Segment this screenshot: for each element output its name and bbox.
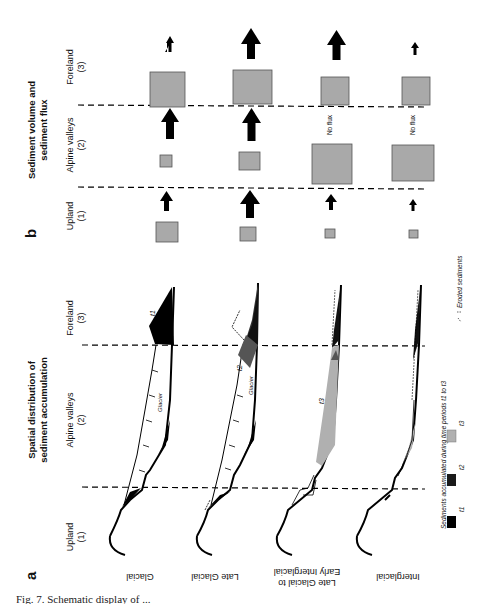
panel-b-letter: b [22, 229, 39, 238]
legend-label-t3: t3 [458, 420, 465, 426]
legend-label-t2: t2 [458, 464, 465, 470]
period-label-interglacial: Interglacial [376, 572, 420, 582]
panel-b-title-line1: Sediment volume and [26, 81, 37, 179]
panel-a: a Spatial distribution of sediment accum… [22, 255, 465, 588]
flux-arrow-lateglacial-alpine-to-foreland [242, 108, 261, 141]
volume-box-lgeig-upland [325, 229, 335, 238]
profile-lg-early-ig: t3 [277, 285, 341, 555]
no-flux-label-lgeig: No flux [326, 114, 333, 135]
panel-a-letter: a [22, 571, 39, 580]
panel-b-zone-alpine: Alpine valleys [65, 117, 75, 173]
volume-box-lateglacial-foreland [233, 70, 272, 104]
legend-label-t1: t1 [458, 506, 465, 512]
panel-b-zone-upland-num: (1) [76, 210, 86, 221]
volume-box-glacial-foreland [150, 72, 185, 107]
flux-arrow-interglacial-upland-to-alpine [409, 199, 417, 211]
panel-b: b Sediment volume and sediment flux Upla… [22, 28, 434, 242]
figure-caption: Fig. 7. Schematic display of ... [16, 593, 151, 604]
flux-arrow-lateglacial-upland-to-alpine [240, 190, 260, 218]
panel-b-zone-foreland-num: (3) [76, 61, 86, 72]
flux-arrow-lgeig-foreland-out [327, 30, 346, 60]
eroded-line-icon [457, 312, 461, 322]
panel-a-title-line2: sediment accumulation [38, 357, 49, 463]
period-label-lgeig-line2: Early Interglacial [274, 567, 341, 577]
period-label-late-glacial: Late Glacial [191, 572, 239, 582]
panel-b-divider-upland-alpine [78, 187, 425, 189]
period-label-glacial: Glacial [126, 572, 154, 582]
volume-box-glacial-alpine [160, 155, 172, 167]
flux-arrow-glacial-upland-to-alpine [160, 191, 173, 211]
panel-a-zone-alpine: Alpine valleys [65, 392, 75, 448]
legend-swatch-t1 [447, 516, 456, 528]
period-label-lgeig-line1: Late Glacial to [278, 578, 336, 588]
volume-box-lgeig-alpine [312, 144, 352, 184]
legend-title: Sediments accumulated during time period… [440, 381, 448, 530]
panel-b-zone-alpine-num: (2) [76, 139, 86, 150]
flux-arrow-interglacial-foreland-out [411, 42, 419, 55]
panel-a-title-line1: Spatial distribution of [26, 360, 37, 458]
volume-box-lgeig-foreland [321, 77, 349, 105]
legend-eroded-label: Eroded sediments [456, 255, 463, 308]
panel-b-divider-alpine-foreland [78, 105, 425, 107]
panel-a-zone-alpine-num: (2) [76, 414, 86, 425]
annotation-t1: t1 [149, 310, 156, 316]
volume-box-interglacial-alpine [392, 145, 434, 181]
flux-arrow-lateglacial-foreland-out [241, 28, 261, 59]
no-flux-label-interglacial: No flux [409, 114, 416, 135]
flux-arrow-glacial-alpine-to-foreland [161, 108, 179, 139]
figure-canvas: b Sediment volume and sediment flux Upla… [0, 0, 490, 604]
volume-box-glacial-upland [156, 222, 178, 242]
profile-glacial: t1 Glacier [110, 287, 174, 555]
volume-box-interglacial-upland [409, 230, 418, 238]
volume-box-lateglacial-upland [240, 227, 256, 241]
legend-swatch-t3 [447, 430, 456, 442]
panel-b-zone-foreland: Foreland [65, 49, 75, 85]
panel-a-divider-upland-alpine [82, 487, 425, 489]
panel-a-zone-foreland-num: (3) [76, 312, 86, 323]
panel-a-zone-foreland: Foreland [65, 300, 75, 336]
annotation-t3: t3 [318, 398, 325, 404]
flux-arrow-lgeig-upland-to-alpine [325, 194, 337, 210]
volume-box-lateglacial-alpine [239, 152, 260, 170]
legend: Sediments accumulated during time period… [440, 255, 465, 529]
annotation-glacier-2: Glacier [248, 375, 254, 395]
panel-a-zone-upland: Upland [65, 523, 75, 552]
legend-swatch-t2 [447, 474, 456, 486]
panel-b-zone-upland: Upland [65, 202, 75, 231]
panel-b-title-line2: sediment flux [38, 99, 49, 161]
profile-late-glacial: t2 Glacier [197, 283, 258, 555]
annotation-glacier-1: Glacier [157, 392, 163, 412]
annotation-t2: t2 [236, 365, 243, 371]
panel-a-zone-upland-num: (1) [76, 531, 86, 542]
volume-box-interglacial-foreland [402, 77, 430, 105]
profile-interglacial [357, 285, 421, 555]
